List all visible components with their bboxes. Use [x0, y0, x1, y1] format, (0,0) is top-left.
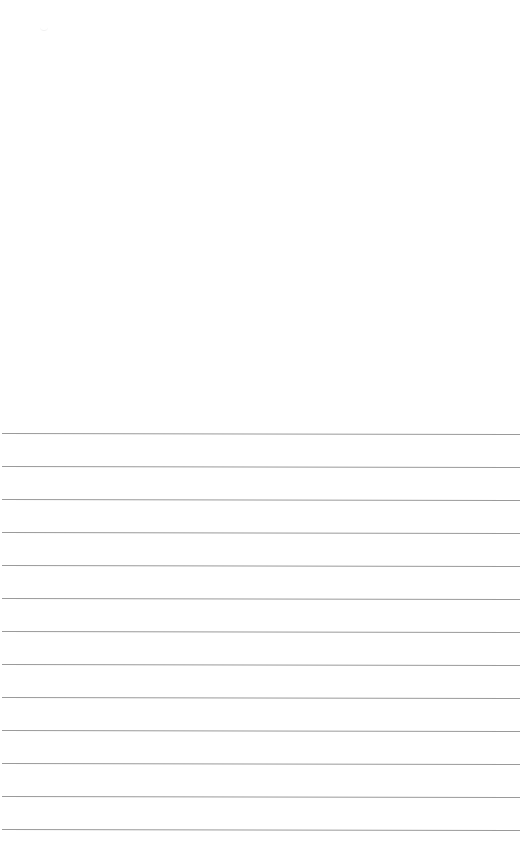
ruled-line	[2, 796, 520, 798]
ruled-line	[2, 598, 520, 600]
ruled-lines	[0, 0, 522, 865]
ruled-line	[2, 697, 520, 699]
ruled-line	[2, 829, 520, 831]
lined-paper-page	[0, 0, 522, 865]
ruled-line	[2, 466, 520, 468]
ruled-line	[2, 763, 520, 765]
ruled-line	[2, 565, 520, 567]
ruled-line	[2, 631, 520, 633]
ruled-line	[2, 730, 520, 732]
ruled-line	[2, 499, 520, 501]
ruled-line	[2, 532, 520, 534]
ruled-line	[2, 433, 520, 435]
ruled-line	[2, 664, 520, 666]
